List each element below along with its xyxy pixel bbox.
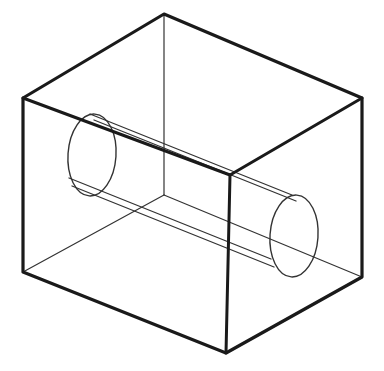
figure-canvas xyxy=(0,0,384,371)
isometric-box-cylinder-drawing xyxy=(0,0,384,371)
drawing-background xyxy=(0,0,384,371)
